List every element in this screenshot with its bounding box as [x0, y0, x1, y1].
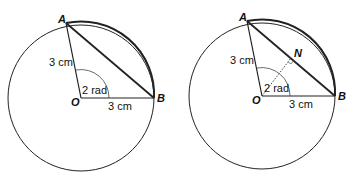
- radius-label-OA: 3 cm: [49, 56, 73, 68]
- point-label-A: A: [57, 13, 66, 25]
- radius-label-OB: 3 cm: [108, 100, 132, 112]
- point-label-B: B: [157, 92, 165, 104]
- point-label-O: O: [252, 94, 261, 106]
- point-label-B: B: [338, 90, 346, 102]
- diagram-right: A B O N 3 cm 3 cm 2 rad: [189, 11, 346, 169]
- point-label-A: A: [238, 11, 247, 23]
- angle-label: 2 rad: [82, 84, 107, 96]
- point-label-N: N: [294, 47, 303, 59]
- angle-label: 2 rad: [264, 82, 289, 94]
- diagram-left: A B O 3 cm 3 cm 2 rad: [8, 13, 165, 171]
- point-label-O: O: [71, 96, 80, 108]
- diagram-canvas: A B O 3 cm 3 cm 2 rad A B O N 3 cm 3 cm …: [0, 0, 353, 186]
- radius-label-OA: 3 cm: [230, 54, 254, 66]
- radius-label-OB: 3 cm: [289, 98, 313, 110]
